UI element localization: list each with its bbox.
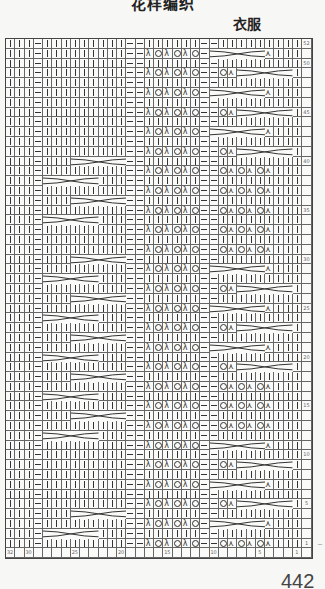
chart-cell (200, 490, 209, 500)
chart-cell (210, 382, 219, 392)
chart-cell (191, 470, 200, 480)
chart-cell (274, 235, 283, 245)
chart-cell (182, 431, 191, 441)
chart-cell (52, 382, 61, 392)
chart-cell (293, 431, 302, 441)
column-number-label (108, 548, 117, 558)
chart-cell (62, 196, 71, 206)
chart-cell (219, 274, 228, 284)
chart-cell (71, 519, 80, 529)
chart-cell (228, 304, 237, 314)
chart-cell (108, 186, 117, 196)
chart-cell (274, 225, 283, 235)
chart-cell (126, 78, 135, 88)
chart-row (6, 274, 312, 284)
chart-cell (173, 343, 182, 353)
chart-cell (274, 78, 283, 88)
chart-cell (163, 480, 172, 490)
chart-cell (6, 274, 15, 284)
chart-cell (52, 98, 61, 108)
chart-cell (284, 343, 293, 353)
chart-cell (265, 343, 274, 353)
chart-cell (293, 372, 302, 382)
chart-cell (182, 441, 191, 451)
chart-cell (163, 88, 172, 98)
chart-cell (265, 186, 274, 196)
chart-cell (210, 245, 219, 255)
chart-cell (200, 460, 209, 470)
chart-cell (25, 362, 34, 372)
chart-cell (219, 225, 228, 235)
chart-cell (154, 401, 163, 411)
chart-cell (34, 362, 43, 372)
chart-cell (117, 78, 126, 88)
chart-cell (256, 499, 265, 509)
chart-cell (80, 215, 89, 225)
chart-cell (43, 78, 52, 88)
chart-cell (62, 88, 71, 98)
chart-cell (25, 313, 34, 323)
chart-cell (136, 59, 145, 69)
chart-cell (117, 68, 126, 78)
chart-cell (228, 431, 237, 441)
chart-cell (237, 39, 246, 49)
chart-cell (145, 519, 154, 529)
chart-cell (154, 304, 163, 314)
chart-cell (284, 108, 293, 118)
chart-cell (182, 284, 191, 294)
chart-cell (34, 215, 43, 225)
chart-cell (237, 304, 246, 314)
chart-cell (89, 117, 98, 127)
chart-cell (210, 411, 219, 421)
chart-cell (43, 480, 52, 490)
chart-cell (25, 235, 34, 245)
chart-cell (200, 382, 209, 392)
chart-cell (182, 186, 191, 196)
chart-cell (256, 519, 265, 529)
chart-cell (265, 401, 274, 411)
chart-cell (6, 353, 15, 363)
chart-cell (228, 313, 237, 323)
chart-cell (145, 353, 154, 363)
chart-cell (43, 431, 52, 441)
chart-cell (52, 539, 61, 549)
chart-cell (117, 539, 126, 549)
chart-cell (71, 450, 80, 460)
chart-cell (247, 49, 256, 59)
chart-row (6, 509, 312, 519)
chart-cell (247, 460, 256, 470)
chart-cell (99, 539, 108, 549)
chart-cell (15, 127, 24, 137)
chart-cell (108, 313, 117, 323)
column-number-label (136, 548, 145, 558)
chart-cell (163, 499, 172, 509)
chart-cell (25, 88, 34, 98)
chart-cell (173, 460, 182, 470)
chart-cell (154, 78, 163, 88)
chart-cell (182, 274, 191, 284)
chart-cell (108, 460, 117, 470)
chart-cell (117, 196, 126, 206)
chart-cell (108, 382, 117, 392)
chart-cell (136, 441, 145, 451)
chart-cell (80, 225, 89, 235)
chart-cell (6, 392, 15, 402)
chart-cell (247, 333, 256, 343)
chart-cell (80, 480, 89, 490)
chart-cell (117, 49, 126, 59)
chart-cell (99, 509, 108, 519)
chart-cell (163, 470, 172, 480)
chart-cell (89, 460, 98, 470)
chart-cell (43, 88, 52, 98)
chart-cell (117, 421, 126, 431)
chart-cell (62, 147, 71, 157)
chart-row: 45 (6, 108, 312, 118)
chart-cell (126, 235, 135, 245)
chart-cell (126, 333, 135, 343)
chart-cell (52, 215, 61, 225)
chart-cell (219, 157, 228, 167)
chart-cell (163, 215, 172, 225)
chart-cell (265, 274, 274, 284)
chart-cell (71, 343, 80, 353)
chart-cell (173, 196, 182, 206)
